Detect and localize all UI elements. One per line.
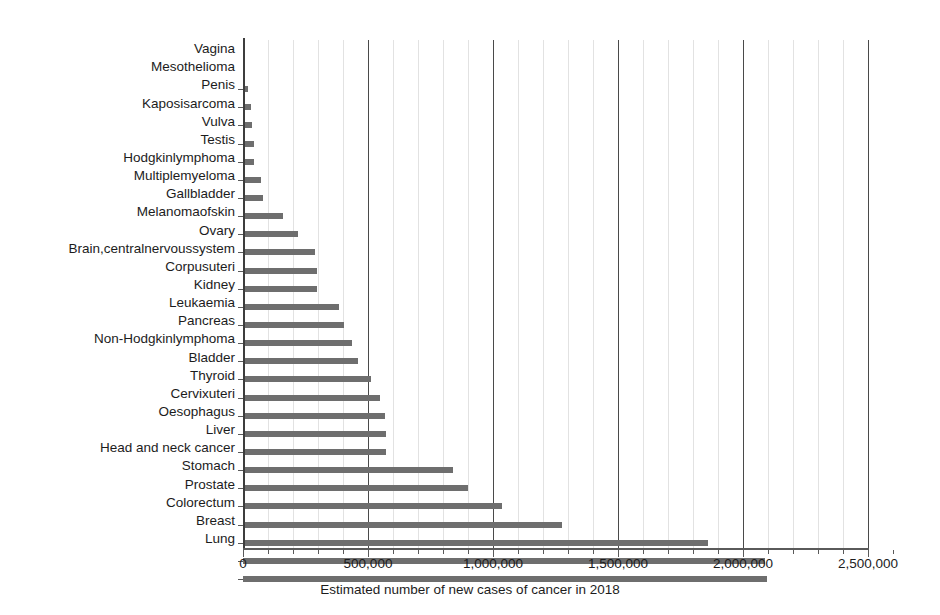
y-axis-category-label: Breast — [196, 514, 235, 528]
x-axis-tick-minor — [518, 550, 519, 554]
y-axis-category-label: Colorectum — [166, 496, 235, 510]
bar — [243, 540, 708, 546]
y-axis-category-label: Non-Hodgkinlymphoma — [94, 332, 235, 346]
x-axis-tick-minor — [693, 550, 694, 554]
gridline-major — [618, 40, 619, 548]
gridline-minor — [793, 40, 794, 548]
y-axis-category-label: Multiplemyeloma — [134, 169, 235, 183]
bar — [243, 467, 453, 473]
y-axis-category-label: Mesothelioma — [151, 60, 235, 74]
x-axis-title: Estimated number of new cases of cancer … — [0, 582, 940, 597]
x-axis-tick-minor — [268, 550, 269, 554]
bar — [243, 249, 315, 255]
x-axis-tick-minor — [818, 550, 819, 554]
y-axis-category-label: Oesophagus — [158, 405, 235, 419]
y-axis-category-label: Kaposisarcoma — [142, 97, 235, 111]
plot-area — [243, 40, 868, 548]
y-axis-category-label: Ovary — [199, 224, 235, 238]
y-axis-category-label: Vulva — [202, 115, 235, 129]
gridline-minor — [843, 40, 844, 548]
y-axis-category-label: Gallbladder — [166, 187, 235, 201]
gridline-major — [743, 40, 744, 548]
x-axis-spine — [243, 548, 869, 550]
y-axis-category-label: Hodgkinlymphoma — [123, 151, 235, 165]
bar — [243, 449, 386, 455]
y-axis-category-label: Brain,centralnervoussystem — [68, 242, 235, 256]
gridline-minor — [468, 40, 469, 548]
x-axis-tick-minor — [568, 550, 569, 554]
x-axis-tick-minor — [768, 550, 769, 554]
x-axis-tick-minor — [668, 550, 669, 554]
bar — [243, 268, 317, 274]
x-axis-tick-label: 2,500,000 — [838, 556, 898, 571]
x-axis-tick-minor — [843, 550, 844, 554]
y-axis-category-label: Bladder — [188, 351, 235, 365]
x-axis-tick-label: 500,000 — [344, 556, 393, 571]
bar — [243, 413, 385, 419]
x-axis-tick-minor — [643, 550, 644, 554]
y-axis-category-label: Cervixuteri — [170, 387, 235, 401]
y-axis-spine — [243, 38, 245, 550]
y-axis-category-label: Lung — [205, 532, 235, 546]
bar — [243, 304, 339, 310]
gridline-minor — [518, 40, 519, 548]
gridline-major — [868, 40, 869, 548]
x-axis-tick-minor — [293, 550, 294, 554]
y-axis-category-label: Stomach — [182, 459, 235, 473]
gridline-minor — [668, 40, 669, 548]
bar — [243, 503, 502, 509]
y-axis-category-label: Corpusuteri — [165, 260, 235, 274]
gridline-minor — [568, 40, 569, 548]
x-axis-tick-minor — [443, 550, 444, 554]
bar — [243, 485, 468, 491]
gridline-minor — [718, 40, 719, 548]
x-axis-tick-label: 2,000,000 — [713, 556, 773, 571]
bar — [243, 213, 283, 219]
bar — [243, 522, 562, 528]
gridline-minor — [543, 40, 544, 548]
y-axis-category-label: Vagina — [194, 42, 235, 56]
bar — [243, 395, 380, 401]
bar — [243, 177, 261, 183]
y-axis-category-label: Testis — [200, 133, 235, 147]
gridline-minor — [768, 40, 769, 548]
y-axis-category-label: Pancreas — [178, 314, 235, 328]
bar — [243, 286, 317, 292]
bar — [243, 358, 358, 364]
bar — [243, 376, 371, 382]
y-axis-category-label: Thyroid — [190, 369, 235, 383]
gridline-minor — [643, 40, 644, 548]
x-axis-tick-minor — [343, 550, 344, 554]
bar — [243, 195, 263, 201]
x-axis-tick-minor — [468, 550, 469, 554]
y-axis-category-label: Kidney — [194, 278, 235, 292]
x-axis-tick-minor — [393, 550, 394, 554]
x-axis-tick-label: 1,500,000 — [588, 556, 648, 571]
bar — [243, 322, 344, 328]
gridline-minor — [593, 40, 594, 548]
gridline-major — [493, 40, 494, 548]
cancer-incidence-bar-chart: Estimated number of new cases of cancer … — [0, 0, 940, 615]
x-axis-tick-label: 0 — [239, 556, 247, 571]
bar — [243, 431, 386, 437]
x-axis-tick-minor — [718, 550, 719, 554]
y-axis-category-label: Penis — [201, 78, 235, 92]
bar — [243, 231, 298, 237]
x-axis-tick-minor — [318, 550, 319, 554]
x-axis-tick-label: 1,000,000 — [463, 556, 523, 571]
y-axis-category-label: Head and neck cancer — [100, 441, 235, 455]
x-axis-tick-minor — [893, 550, 894, 554]
y-axis-category-label: Liver — [206, 423, 235, 437]
gridline-minor — [818, 40, 819, 548]
x-axis-tick-minor — [543, 550, 544, 554]
y-axis-category-label: Melanomaofskin — [137, 205, 235, 219]
x-axis-tick-minor — [793, 550, 794, 554]
bar — [243, 340, 352, 346]
x-axis-tick-minor — [593, 550, 594, 554]
x-axis-tick-minor — [418, 550, 419, 554]
y-axis-category-label: Leukaemia — [169, 296, 235, 310]
gridline-minor — [693, 40, 694, 548]
y-axis-category-label: Prostate — [185, 478, 235, 492]
